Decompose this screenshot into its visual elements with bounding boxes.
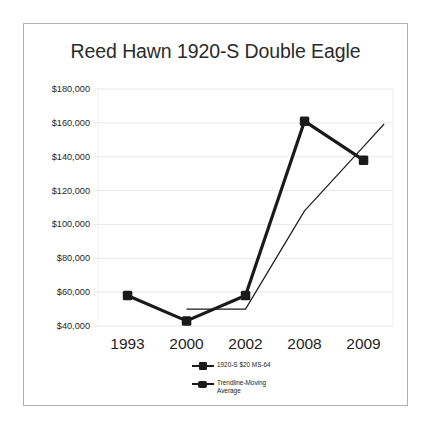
legend-marker-trendline-icon [192, 378, 214, 390]
legend-item-primary: 1920-S $20 MS-64 [192, 359, 342, 373]
legend-item-trendline: Trendline-Moving Average [192, 377, 342, 395]
x-axis-tick-label: 2008 [287, 335, 321, 353]
plot-area: $40,000$60,000$80,000$100,000$120,000$14… [24, 24, 409, 407]
chart-container: Reed Hawn 1920-S Double Eagle $40,000$60… [23, 23, 408, 406]
legend-label-primary: 1920-S $20 MS-64 [217, 359, 271, 369]
x-axis-tick-label: 2000 [169, 335, 203, 353]
x-axis-tick-label: 2002 [228, 335, 262, 353]
x-axis-tick-label: 1993 [110, 335, 144, 353]
x-axis-tick-labels: 19932000200220082009 [24, 24, 409, 407]
chart-legend: 1920-S $20 MS-64 Trendline-Moving Averag… [192, 359, 342, 399]
x-axis-tick-label: 2009 [346, 335, 380, 353]
legend-marker-square-icon [192, 360, 214, 372]
legend-label-trendline: Trendline-Moving Average [217, 377, 266, 394]
